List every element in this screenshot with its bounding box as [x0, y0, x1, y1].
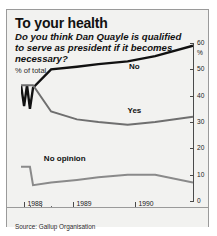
series-label-yes: Yes [128, 106, 142, 115]
series-label-no-opinion: No opinion [44, 154, 86, 163]
y-tick-mark [190, 175, 194, 176]
y-tick-label: 50 [197, 65, 204, 72]
series-lines [21, 43, 193, 201]
series-label-no: No [129, 62, 140, 71]
y-tick-mark [190, 122, 194, 123]
series-line-no-opinion [21, 167, 193, 185]
y-tick-mark [190, 96, 194, 97]
series-line-no [21, 46, 193, 109]
y-axis-percent-symbol: % [197, 49, 203, 56]
y-tick-label: 60 [197, 39, 204, 46]
plot-area [21, 43, 193, 201]
y-tick-mark [190, 69, 194, 70]
y-tick-mark [190, 43, 194, 44]
y-tick-label: 30 [197, 118, 204, 125]
chart-figure: To your health Do you think Dan Quayle i… [6, 9, 209, 227]
y-tick-mark [190, 201, 194, 202]
y-tick-label: 40 [197, 92, 204, 99]
y-tick-label: 0 [197, 197, 201, 204]
series-line-yes [21, 85, 193, 124]
x-tick-label-year: 1990 [138, 200, 153, 207]
x-tick-label-year: 1989 [76, 200, 91, 207]
source-note: Source: Gallup Organisation [15, 223, 95, 230]
y-tick-label: 20 [197, 144, 204, 151]
y-tick-label: 10 [197, 171, 204, 178]
y-tick-mark [190, 148, 194, 149]
chart-title: To your health [15, 15, 108, 31]
